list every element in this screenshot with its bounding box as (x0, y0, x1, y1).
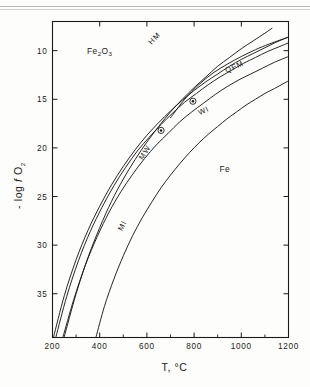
y-tick-label: 10 (37, 47, 48, 56)
figure-root: 20040060080010001200101520253035HMQFMMWW… (0, 0, 310, 387)
curve-mw-upper-branch (171, 37, 289, 118)
y-tick-label: 15 (37, 95, 48, 104)
marker-b (158, 127, 164, 133)
x-axis-title: T, °C (162, 361, 188, 373)
annotation-markers (158, 98, 196, 133)
x-tick-label: 800 (186, 342, 202, 351)
oxygen-fugacity-buffer-chart: 20040060080010001200101520253035HMQFMMWW… (0, 0, 310, 387)
y-tick-label: 30 (37, 241, 48, 250)
curve-hm (64, 28, 272, 336)
plot-frame (53, 22, 289, 338)
x-tick-label: 400 (92, 342, 108, 351)
y-tick-label: 20 (37, 144, 48, 153)
buffer-curves (54, 28, 289, 336)
curve-mw (56, 43, 288, 337)
x-tick-label: 200 (45, 342, 61, 351)
x-tick-label: 600 (139, 342, 155, 351)
axis-ticks: 20040060080010001200101520253035 (37, 22, 299, 352)
curve-mi (96, 81, 288, 337)
curve-wi (63, 57, 288, 337)
x-tick-label: 1000 (231, 342, 252, 351)
curve-qfm (54, 37, 289, 336)
marker-a (190, 98, 196, 104)
curve-label-mi: MI (116, 219, 129, 232)
curve-label-qfm: QFM (224, 59, 246, 75)
y-tick-label: 35 (37, 290, 48, 299)
y-axis-title: - log f O2 (12, 162, 26, 209)
field-label-iron-field: Fe (219, 164, 230, 174)
field-label-hematite-field: Fe2O3 (87, 46, 112, 57)
y-tick-label: 25 (37, 193, 48, 202)
x-tick-label: 1200 (278, 342, 299, 351)
curve-label-hm: HM (147, 30, 163, 46)
